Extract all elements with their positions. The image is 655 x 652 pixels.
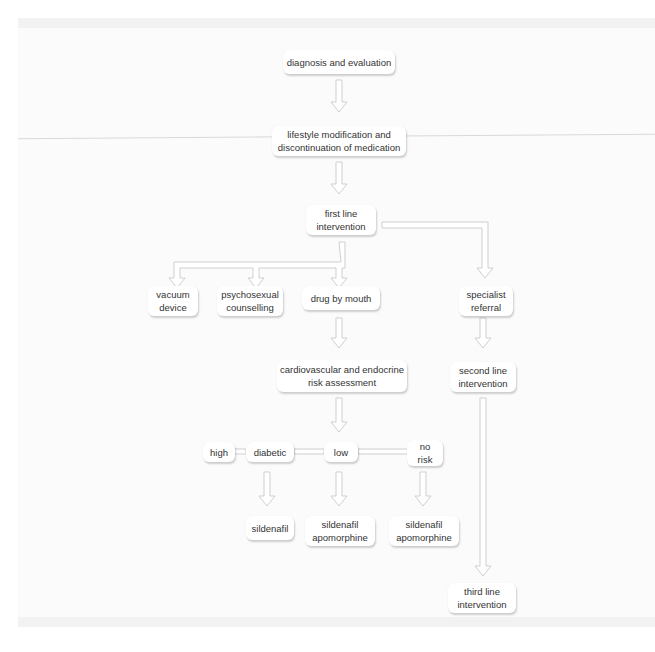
arrows-layer xyxy=(0,0,655,652)
arrow-norisk-sildenafil xyxy=(415,472,431,506)
node-no-risk: no risk xyxy=(407,440,443,466)
node-specialist: specialist referral xyxy=(459,286,513,316)
node-sildenafil-norisk: sildenafil apomorphine xyxy=(389,516,459,546)
node-second-line: second line intervention xyxy=(450,362,516,392)
node-third-line: third line intervention xyxy=(448,583,516,613)
connector-diabetic-low xyxy=(294,449,324,454)
arrow-firstline-specialist xyxy=(382,222,493,278)
node-high: high xyxy=(203,442,235,462)
arrow-diagnosis-lifestyle xyxy=(331,80,347,112)
arrow-secondline-thirdline xyxy=(475,398,491,576)
node-lifestyle: lifestyle modification and discontinuati… xyxy=(272,126,406,156)
node-diagnosis: diagnosis and evaluation xyxy=(283,50,395,74)
arrow-diabetic-sildenafil xyxy=(259,472,275,506)
node-drug-by-mouth: drug by mouth xyxy=(302,286,380,310)
node-sildenafil-low: sildenafil apomorphine xyxy=(305,516,375,546)
arrow-firstline-branches xyxy=(169,242,347,288)
arrow-drug-risk xyxy=(331,318,347,348)
arrow-risk-low xyxy=(331,398,347,432)
node-psychosexual: psychosexual counselling xyxy=(217,286,283,316)
connector-high-diabetic xyxy=(234,449,246,454)
node-first-line: first line intervention xyxy=(306,205,376,235)
connector-low-norisk xyxy=(358,449,414,454)
node-low: low xyxy=(324,442,358,462)
node-sildenafil-diabetic: sildenafil xyxy=(246,516,294,540)
node-risk-assessment: cardiovascular and endocrine risk assess… xyxy=(277,360,407,392)
node-vacuum-device: vacuum device xyxy=(148,286,198,316)
arrow-lifestyle-firstline xyxy=(331,162,347,194)
node-diabetic: diabetic xyxy=(246,442,294,462)
arrow-low-sildenafil xyxy=(331,472,347,506)
arrow-specialist-secondline xyxy=(475,318,491,348)
